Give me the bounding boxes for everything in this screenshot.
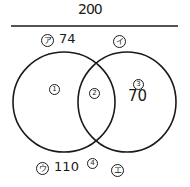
region-2-mark: 2 xyxy=(89,88,100,99)
right-bottom-label: エ xyxy=(111,160,124,177)
left-top-label: ア 74 xyxy=(41,30,76,47)
region-3-value: 70 xyxy=(128,89,147,104)
circled-mark-a: ア xyxy=(41,34,54,47)
left-set-circle xyxy=(13,52,115,152)
left-top-value: 74 xyxy=(59,31,76,46)
circled-mark-e: エ xyxy=(111,164,124,177)
region-1: 1 xyxy=(49,78,60,95)
circled-mark-i: イ xyxy=(113,35,126,48)
total-value: 200 xyxy=(78,2,102,16)
region-4-mark: 4 xyxy=(87,158,98,169)
region-2: 2 xyxy=(89,82,100,99)
region-1-mark: 1 xyxy=(49,84,60,95)
right-top-label: イ xyxy=(113,31,126,48)
left-bottom-value: 110 xyxy=(54,159,79,174)
circled-mark-u: ウ xyxy=(36,162,49,175)
region-4: 4 xyxy=(87,152,98,169)
right-set-circle xyxy=(78,52,176,152)
left-bottom-label: ウ 110 xyxy=(36,158,79,175)
